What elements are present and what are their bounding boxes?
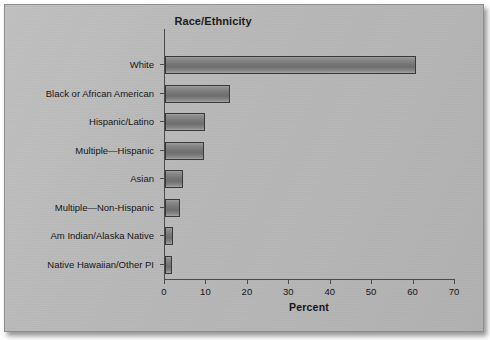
x-axis-label: 70 <box>439 286 469 297</box>
y-axis-tick <box>160 93 164 94</box>
bar-row: White <box>5 51 483 79</box>
x-axis-tick <box>454 279 455 284</box>
bar <box>165 142 204 160</box>
bar <box>165 85 230 103</box>
x-axis-label: 50 <box>356 286 386 297</box>
bar-row: Black or African American <box>5 80 483 108</box>
y-axis-tick <box>160 235 164 236</box>
category-label: White <box>5 51 157 79</box>
x-axis-tick <box>247 279 248 284</box>
x-axis-title: Percent <box>164 301 454 313</box>
category-label: Black or African American <box>5 80 157 108</box>
plot-area: White Black or African American Hispanic… <box>5 5 483 331</box>
category-label: Multiple—Hispanic <box>5 137 157 165</box>
bar-row: Asian <box>5 165 483 193</box>
bar-row: Native Hawaiian/Other PI <box>5 251 483 279</box>
chart-title: Race/Ethnicity <box>5 15 483 27</box>
bar-row: Am Indian/Alaska Native <box>5 222 483 250</box>
x-axis-label: 20 <box>232 286 262 297</box>
x-axis-tick <box>205 279 206 284</box>
bar <box>165 227 173 245</box>
category-label: Multiple—Non-Hispanic <box>5 194 157 222</box>
category-label: Native Hawaiian/Other PI <box>5 251 157 279</box>
x-axis-tick <box>164 279 165 284</box>
bar <box>165 113 205 131</box>
bar-row: Multiple—Hispanic <box>5 137 483 165</box>
y-axis-tick <box>160 178 164 179</box>
category-label: Asian <box>5 165 157 193</box>
bar <box>165 256 172 274</box>
y-axis-tick <box>160 264 164 265</box>
bar-row: Multiple—Non-Hispanic <box>5 194 483 222</box>
y-axis-tick <box>160 121 164 122</box>
x-axis-tick <box>413 279 414 284</box>
x-axis-label: 40 <box>315 286 345 297</box>
bar-row: Hispanic/Latino <box>5 108 483 136</box>
x-axis-tick <box>371 279 372 284</box>
x-axis-line <box>164 279 454 280</box>
y-axis-tick <box>160 207 164 208</box>
y-axis-tick <box>160 150 164 151</box>
bar <box>165 170 183 188</box>
category-label: Hispanic/Latino <box>5 108 157 136</box>
y-axis-tick <box>160 64 164 65</box>
bar <box>165 199 180 217</box>
bar <box>165 56 416 74</box>
figure-frame: Race/Ethnicity White Black or African Am… <box>4 4 484 332</box>
category-label: Am Indian/Alaska Native <box>5 222 157 250</box>
x-axis-label: 0 <box>149 286 179 297</box>
x-axis-tick <box>330 279 331 284</box>
x-axis-label: 30 <box>273 286 303 297</box>
x-axis-tick <box>288 279 289 284</box>
x-axis-label: 60 <box>398 286 428 297</box>
x-axis-label: 10 <box>190 286 220 297</box>
